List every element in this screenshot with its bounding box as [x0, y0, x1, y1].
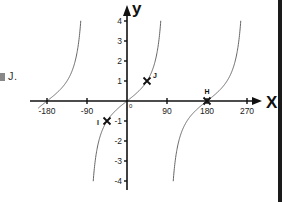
point-h: H — [204, 88, 211, 105]
x-tick-label: -180 — [38, 106, 55, 116]
tan-branch-left — [38, 21, 81, 109]
y-tick-label: 3 — [117, 36, 122, 46]
x-axis-arrow — [252, 97, 262, 105]
x-tick-label: -90 — [81, 106, 94, 116]
y-tick-label: -3 — [114, 156, 122, 166]
point-marker-cross — [104, 118, 111, 125]
x-tick-label: 90 — [162, 106, 172, 116]
y-tick-label: -4 — [114, 176, 122, 186]
tan-graph: Xy -180-90901802704321-1-2-3-40 JIH — [0, 0, 282, 202]
y-tick-label: 4 — [117, 16, 122, 26]
x-tick-label: 180 — [200, 106, 214, 116]
origin-label: 0 — [129, 103, 133, 109]
y-tick-label: -1 — [114, 116, 122, 126]
y-axis-arrow — [123, 5, 131, 16]
y-tick-label: -2 — [114, 136, 122, 146]
point-j: J — [144, 72, 158, 85]
x-tick-label: 270 — [240, 106, 254, 116]
point-label: H — [204, 88, 209, 95]
point-marker-cross — [144, 78, 151, 85]
y-tick-label: 1 — [117, 76, 122, 86]
point-i: I — [97, 118, 110, 127]
right-edge-bar — [278, 0, 282, 202]
x-axis-label: X — [266, 93, 278, 112]
point-label: J — [153, 72, 157, 79]
y-axis-label: y — [132, 0, 142, 18]
y-tick-label: 2 — [117, 56, 122, 66]
point-label: I — [97, 119, 99, 126]
